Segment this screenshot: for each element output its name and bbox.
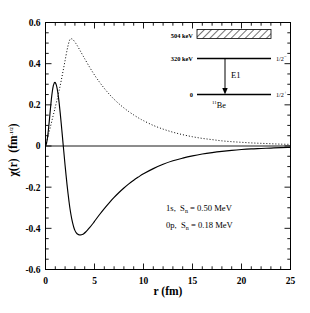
level-320-energy-label: 320 keV — [171, 55, 194, 62]
level-320-spin: 1/2 — [276, 55, 284, 62]
annotation-1s-orbital: 1s, — [166, 203, 176, 213]
y-axis-title-text: χ(r) (fm-1/2) — [7, 123, 20, 177]
y-tick-label: -0.6 — [25, 265, 40, 275]
y-tick-label: -0.2 — [25, 183, 40, 193]
annotation-0p-orbital: 0p, — [166, 220, 177, 230]
annotation-1s: 1s, Sn = 0.50 MeV — [166, 203, 233, 214]
x-tick-label: 5 — [92, 276, 97, 286]
annotation-1s-text: 1s, Sn = 0.50 MeV — [166, 203, 233, 214]
y-tick-label: 0.4 — [29, 59, 41, 69]
x-axis-tick-labels: 0510152025 — [43, 276, 295, 286]
inset-nucleus-label: 11Be — [212, 100, 226, 110]
figure-panel: 0510152025 -0.6-0.4-0.200.20.40.6 r (fm)… — [0, 0, 310, 313]
level-320-spin-parity: 1/2− — [276, 54, 287, 62]
chart-svg: 0510152025 -0.6-0.4-0.200.20.40.6 r (fm)… — [0, 0, 310, 313]
x-tick-label: 25 — [286, 276, 296, 286]
level-0-energy-label: 0 — [190, 91, 193, 98]
series-curve-1s — [46, 39, 291, 146]
y-tick-label: -0.4 — [25, 224, 40, 234]
y-tick-label: 0.6 — [29, 18, 41, 28]
y-axis-title: χ(r) (fm-1/2) — [7, 123, 20, 177]
e1-transition-label: E1 — [231, 70, 241, 80]
level-0-parity: + — [284, 90, 287, 95]
y-axis-unit-open: (fm — [7, 135, 20, 153]
x-tick-label: 10 — [139, 276, 149, 286]
level-504-hatched-band — [197, 30, 271, 39]
x-axis-title: r (fm) — [154, 285, 183, 298]
nucleus-symbol: Be — [217, 101, 226, 110]
y-axis-chi: χ(r) — [7, 158, 20, 177]
x-tick-label: 0 — [43, 276, 48, 286]
annotation-0p-text: 0p, Sn = 0.18 MeV — [166, 220, 234, 231]
level-504-energy-label: 504 keV — [171, 32, 194, 39]
x-tick-label: 15 — [188, 276, 198, 286]
level-0-spin-parity: 1/2+ — [276, 90, 287, 98]
x-tick-label: 20 — [237, 276, 247, 286]
annotation-0p-value: = 0.18 MeV — [191, 220, 234, 230]
e1-transition-arrow-head — [222, 88, 227, 95]
y-axis-tick-labels: -0.6-0.4-0.200.20.40.6 — [25, 18, 40, 275]
y-axis-unit-close: ) — [7, 123, 20, 127]
inset-level-scheme: 504 keV 320 keV 1/2− 0 1/2+ E1 11Be — [171, 30, 287, 111]
annotation-0p: 0p, Sn = 0.18 MeV — [166, 220, 234, 231]
level-0-spin: 1/2 — [276, 91, 284, 98]
y-tick-label: 0.2 — [29, 100, 41, 110]
annotation-1s-value: = 0.50 MeV — [190, 203, 233, 213]
y-tick-label: 0 — [36, 141, 41, 151]
level-320-parity: − — [284, 54, 287, 59]
